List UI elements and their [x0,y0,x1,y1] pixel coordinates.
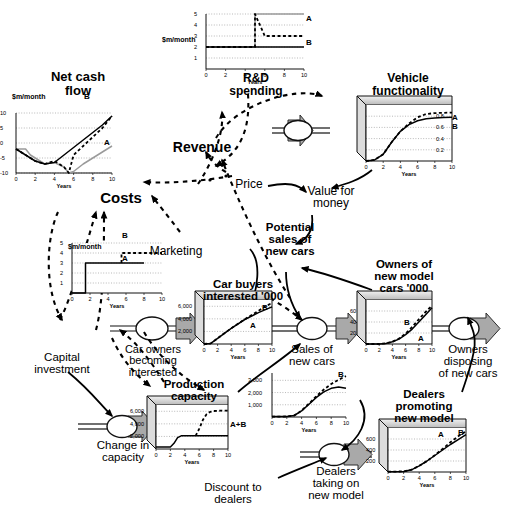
series-label: B [262,303,268,312]
x-axis-title: Years [57,183,72,189]
y-tick-label: 600 [366,436,375,442]
chart-title-rd-spending: R&D spending [216,72,296,97]
series-label: B [404,318,410,327]
x-tick-label: 2 [34,176,37,182]
label-discount-to-dealers: Discount to dealers [186,482,280,506]
x-tick-label: 2 [88,296,91,302]
series-label: B [122,231,128,240]
y-tick-label: 4,000 [130,421,144,427]
x-tick-label: 0 [270,420,273,426]
label-owners-disposing: Owners disposing of new cars [426,344,510,380]
label-sales-of-new-cars: Sales of new cars [272,344,352,368]
x-tick-label: 10 [343,420,349,426]
x-tick-label: 4 [300,420,303,426]
chart-title-production-capacity: Production capacity [148,378,240,402]
label-value-for-money: Value for money [296,185,366,210]
series-label: B [338,370,344,379]
x-tick-label: 4 [183,452,186,458]
x-tick-label: 8 [91,176,94,182]
x-tick-label: 8 [212,452,215,458]
x-tick-label: 8 [142,296,145,302]
x-tick-label: 4 [399,164,402,170]
x-tick-label: 2 [285,420,288,426]
x-axis-title: Years [392,354,407,360]
y-tick-label: 0.6 [436,124,444,130]
y-tick-label: 6,000 [178,303,192,309]
x-tick-label: 0 [364,164,367,170]
x-tick-label: 6 [315,420,318,426]
label-marketing: Marketing [140,245,212,257]
y-tick-label: 20 [350,330,356,336]
y-tick-label: 2 [194,44,197,50]
x-tick-label: 6 [124,296,127,302]
x-tick-label: 8 [330,420,333,426]
series-label: A [438,430,444,439]
x-tick-label: 2 [378,347,381,353]
series-label: A [418,334,424,343]
pipe-car-buyers-to-sales [272,326,300,331]
series-label: B [458,428,464,437]
y-tick-label: -10 [0,170,8,176]
y-tick-label: 6,000 [130,408,144,414]
x-axis-title: Years [231,354,246,360]
x-tick-label: 0 [364,347,367,353]
y-tick-label: 10 [0,110,6,116]
x-tick-label: 0 [14,176,17,182]
chart-units-net-cash-flow: $m/month [12,93,45,100]
x-tick-label: 8 [417,347,420,353]
x-axis-title: Years [110,303,125,309]
y-tick-label: 1 [60,280,63,286]
x-axis-title: Years [302,427,317,433]
x-tick-label: 10 [449,164,455,170]
y-tick-label: 3 [60,260,63,266]
series-label: B [84,92,90,101]
label-potential-sales: Potential sales of new cars [252,222,328,258]
series-label: A [452,113,458,122]
x-tick-label: 10 [463,475,469,481]
x-tick-label: 6 [198,452,201,458]
x-tick-label: 10 [159,296,165,302]
valve-rd-to-functionality [284,121,312,141]
chart-net-cash-flow: -10-505100246810Years [0,110,115,189]
valve-car-owners-becoming-interested [136,317,168,340]
link-costs-left-a [49,212,62,320]
y-tick-label: 40 [350,319,356,325]
y-tick-label: 2,000 [248,390,262,396]
y-tick-label: 400 [366,447,375,453]
label-capital-investment: Capital investment [20,352,104,376]
series-label: A [104,138,110,147]
y-tick-label: -5 [0,155,5,161]
chart-dealers-promoting-new-model: 2004006000246810Years [366,419,469,488]
y-tick-label: 4,000 [178,316,192,322]
label-change-in-capacity: Change in capacity [80,440,166,464]
x-tick-label: 4 [106,296,109,302]
series-label: A [306,14,312,23]
chart-title-car-buyers-interested: Car buyers interested '000 [188,278,298,302]
valve-dealers-taking-on [319,444,349,466]
diagram-canvas: -10-505100246810Years123450246810Years0.… [0,0,530,528]
x-tick-label: 6 [404,347,407,353]
x-tick-label: 0 [70,296,73,302]
x-tick-label: 6 [243,347,246,353]
y-tick-label: 60 [350,308,356,314]
link-capital-to-change [68,372,112,416]
chart-title-dealers-promoting-new-model: Dealers promoting new model [374,388,474,424]
series-label: A+B [230,420,246,429]
y-tick-label: 0 [0,140,3,146]
x-tick-label: 10 [301,72,307,78]
label-revenue: Revenue [164,140,240,154]
x-tick-label: 2 [382,164,385,170]
x-tick-label: 8 [257,347,260,353]
series-label: A [122,254,128,263]
chart-units-marketing: $m/month [68,243,101,250]
x-tick-label: 6 [433,475,436,481]
link-marketing-to-costs [152,196,180,232]
x-tick-label: 6 [416,164,419,170]
x-tick-label: 8 [433,164,436,170]
series-label: B [452,122,458,131]
y-tick-label: 1 [194,55,197,61]
y-tick-label: 0.4 [436,136,444,142]
valve-sales-of-new-cars [297,318,327,340]
y-tick-label: 0.2 [436,147,444,153]
series-label: A [250,321,256,330]
